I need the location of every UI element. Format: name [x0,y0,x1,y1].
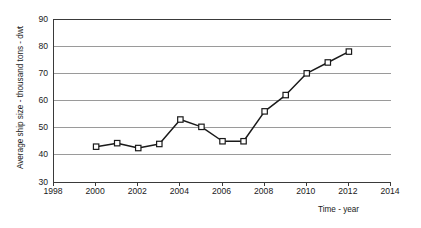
data-point-marker [283,92,288,97]
y-tick-label: 70 [26,69,48,78]
x-tick-label: 2010 [286,186,326,197]
series-polyline [96,52,349,148]
x-tick-label: 2006 [202,186,242,197]
y-tick-label: 60 [26,96,48,105]
y-tick-label: 40 [26,150,48,159]
y-axis-tick-labels: 30405060708090 [22,19,48,182]
data-point-marker [136,145,141,150]
data-point-marker [157,141,162,146]
data-point-marker [241,139,246,144]
x-tick-label: 2002 [117,186,157,197]
data-point-marker [346,49,351,54]
data-point-marker [93,144,98,149]
x-axis-title: Time - year [318,205,359,214]
data-point-marker [325,60,330,65]
data-point-marker [262,109,267,114]
x-tick-label: 2000 [75,186,115,197]
x-tick-label: 2014 [370,186,410,197]
line-chart: Average ship size - thousand tons - dwt … [0,0,421,228]
data-point-marker [199,124,204,129]
x-tick-label: 2004 [159,186,199,197]
data-point-marker [178,117,183,122]
data-point-marker [304,71,309,76]
data-series-line [54,19,391,182]
data-point-marker [220,139,225,144]
y-tick-label: 90 [26,15,48,24]
plot-area [53,19,391,183]
data-point-marker [114,140,119,145]
x-tick-label: 2012 [328,186,368,197]
y-tick-label: 80 [26,42,48,51]
y-tick-label: 50 [26,123,48,132]
x-tick-label: 1998 [33,186,73,197]
x-tick-label: 2008 [244,186,284,197]
x-axis-tick-labels: 199820002002200420062008201020122014 [53,186,390,198]
